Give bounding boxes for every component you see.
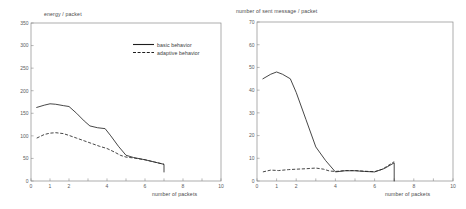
series-line-basic-right xyxy=(263,72,394,181)
y-tick-label: 200 xyxy=(20,88,29,94)
x-tick-label: 1 xyxy=(275,183,278,189)
chart-panel-sent-messages-per-packet: number of sent message / packet number o… xyxy=(233,0,466,209)
plot-area-left: 050100150200250300350 01246810 xyxy=(0,0,233,209)
y-tick-label: 150 xyxy=(20,110,29,116)
y-tick-label: 350 xyxy=(20,20,29,26)
y-tick-label: 50 xyxy=(249,64,255,70)
x-tick-label: 2 xyxy=(68,183,71,189)
x-tick-label: 10 xyxy=(218,183,224,189)
x-axis-ticks-right: 01246810 xyxy=(256,178,456,189)
series-line-adaptive-left xyxy=(37,133,164,165)
x-tick-label: 4 xyxy=(106,183,109,189)
y-axis-ticks-left: 050100150200250300350 xyxy=(20,20,33,184)
y-tick-label: 70 xyxy=(249,19,255,25)
x-tick-label: 6 xyxy=(373,183,376,189)
chart-panel-energy-per-packet: energy / packet number of packets 050100… xyxy=(0,0,233,209)
y-tick-label: 30 xyxy=(249,110,255,116)
x-tick-label: 6 xyxy=(144,183,147,189)
x-tick-label: 2 xyxy=(295,183,298,189)
x-tick-label: 10 xyxy=(450,183,456,189)
y-tick-label: 0 xyxy=(26,178,29,184)
y-tick-label: 250 xyxy=(20,65,29,71)
plot-area-right: 010203040506070 01246810 xyxy=(233,0,466,209)
y-axis-ticks-right: 010203040506070 xyxy=(249,19,260,184)
x-tick-label: 0 xyxy=(256,183,259,189)
x-tick-label: 8 xyxy=(412,183,415,189)
y-tick-label: 20 xyxy=(249,132,255,138)
y-tick-label: 50 xyxy=(23,155,29,161)
figure-two-line-charts: energy / packet number of packets 050100… xyxy=(0,0,466,209)
x-tick-label: 4 xyxy=(334,183,337,189)
legend-label-basic: basic behavior xyxy=(157,42,192,48)
plot-frame-right xyxy=(257,22,453,181)
x-tick-label: 1 xyxy=(49,183,52,189)
x-axis-ticks-left: 01246810 xyxy=(30,178,224,189)
legend-label-adaptive: adaptive behavior xyxy=(157,50,200,56)
series-line-adaptive-right xyxy=(263,162,394,172)
y-tick-label: 0 xyxy=(252,178,255,184)
y-tick-label: 300 xyxy=(20,42,29,48)
y-tick-label: 40 xyxy=(249,87,255,93)
x-tick-label: 8 xyxy=(182,183,185,189)
x-tick-label: 0 xyxy=(30,183,33,189)
series-line-basic-left xyxy=(37,104,164,172)
y-tick-label: 10 xyxy=(249,155,255,161)
y-tick-label: 60 xyxy=(249,42,255,48)
y-tick-label: 100 xyxy=(20,133,29,139)
